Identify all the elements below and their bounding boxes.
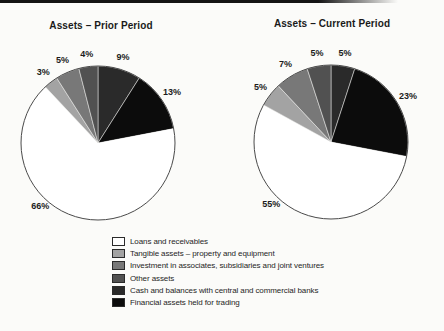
slice-value-label-tangible: 3%: [37, 67, 50, 77]
legend-label-tangible-assets: Tangible assets – property and equipment: [130, 249, 275, 258]
slice-value-label-other: 4%: [80, 49, 93, 59]
legend-swatch-other-assets-icon: [112, 274, 125, 283]
legend-label-investments: Investment in associates, subsidiaries a…: [130, 261, 324, 270]
legend: Loans and receivables Tangible assets – …: [112, 237, 324, 311]
legend-swatch-financial-assets-icon: [112, 298, 125, 307]
legend-label-other-assets: Other assets: [130, 274, 174, 283]
legend-swatch-loans-icon: [112, 237, 125, 246]
legend-label-loans: Loans and receivables: [130, 237, 208, 246]
chart-title-prior-period: Assets – Prior Period: [49, 20, 152, 31]
pie-chart-prior-period: 9%13%66%3%5%4%: [0, 43, 208, 233]
slice-value-label-investment: 5%: [56, 55, 69, 65]
legend-swatch-investments-icon: [112, 261, 125, 270]
legend-item-financial-assets: Financial assets held for trading: [112, 299, 324, 307]
legend-swatch-cash-balances-icon: [112, 286, 125, 295]
pie-chart-current-period: 5%23%55%5%7%5%: [221, 42, 441, 232]
legend-item-other-assets: Other assets: [112, 274, 324, 282]
legend-item-loans: Loans and receivables: [112, 237, 324, 245]
slice-value-label-loans: 66%: [31, 201, 49, 211]
legend-item-investments: Investment in associates, subsidiaries a…: [112, 262, 324, 270]
top-rule: [0, 0, 398, 3]
slice-value-label-loans: 55%: [262, 199, 280, 209]
slice-value-label-cash: 5%: [338, 48, 351, 58]
legend-item-tangible-assets: Tangible assets – property and equipment: [112, 249, 324, 257]
slice-value-label-tangible: 5%: [254, 82, 267, 92]
figure-page: Assets – Prior Period Assets – Current P…: [0, 0, 444, 331]
slice-value-label-other: 5%: [310, 48, 323, 58]
legend-label-cash-balances: Cash and balances with central and comme…: [130, 286, 318, 295]
slice-value-label-cash: 9%: [116, 52, 129, 62]
slice-value-label-financial: 13%: [163, 87, 181, 97]
legend-label-financial-assets: Financial assets held for trading: [130, 298, 240, 307]
slice-value-label-investment: 7%: [279, 59, 292, 69]
chart-title-current-period: Assets – Current Period: [274, 18, 390, 29]
slice-value-label-financial: 23%: [399, 91, 417, 101]
legend-item-cash-balances: Cash and balances with central and comme…: [112, 287, 324, 295]
legend-swatch-tangible-icon: [112, 249, 125, 258]
